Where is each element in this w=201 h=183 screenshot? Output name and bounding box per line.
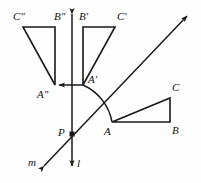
label-l: l [77,158,80,169]
label-a-double-prime: A″ [37,89,48,100]
triangle-abc [112,98,170,122]
label-c-double-prime: C″ [13,11,25,22]
label-p: P [58,127,65,138]
label-b-prime: B′ [79,11,88,22]
label-c: C [172,82,179,93]
point-p-marker [70,132,75,137]
line-m-segment [44,16,187,166]
label-m: m [28,157,36,168]
triangle-double-prime-path [23,27,55,85]
label-a-prime: A′ [88,74,97,85]
rotation-arc-a-to-a-prime [83,85,112,122]
label-c-prime: C′ [117,11,127,22]
label-b-double-prime: B″ [54,11,65,22]
label-b: B [172,125,179,136]
label-a: A [104,126,111,137]
triangle-abc-path [112,98,170,122]
line-m [44,16,187,166]
geometry-figure: C″ B″ B′ C′ A″ A′ C A B P m l [0,0,201,183]
triangle-a-dprime-b-dprime-c-dprime [23,27,55,85]
